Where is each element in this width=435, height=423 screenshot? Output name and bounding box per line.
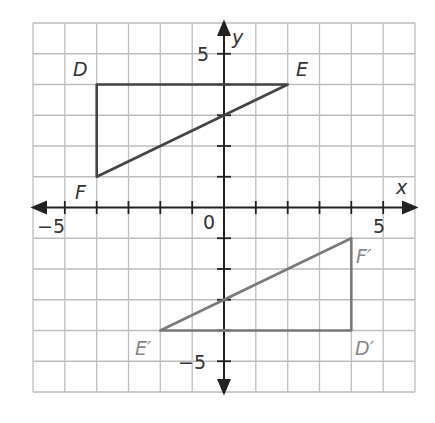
x-axis-label: x bbox=[395, 176, 408, 198]
x-neg-tick-label: −5 bbox=[37, 215, 65, 237]
x-pos-tick-label: 5 bbox=[373, 215, 385, 237]
x-axis-right-arrow-icon bbox=[403, 202, 416, 213]
y-axis-down-arrow-icon bbox=[219, 380, 230, 393]
y-pos-tick-label: 5 bbox=[197, 43, 209, 65]
coordinate-plane: y x 0 5 −5 5 −5 D E F F′ D′ E′ bbox=[0, 0, 435, 423]
y-axis-up-arrow-icon bbox=[219, 22, 230, 35]
vertex-label-d-prime: D′ bbox=[355, 337, 375, 359]
origin-label: 0 bbox=[203, 211, 215, 233]
y-neg-tick-label: −5 bbox=[178, 351, 206, 373]
x-axis-left-arrow-icon bbox=[33, 202, 46, 213]
vertex-label-f: F bbox=[75, 181, 87, 203]
vertex-label-e: E bbox=[296, 58, 308, 80]
y-axis-label: y bbox=[231, 26, 244, 48]
vertex-label-e-prime: E′ bbox=[135, 337, 152, 359]
vertex-label-d: D bbox=[73, 58, 88, 80]
vertex-label-f-prime: F′ bbox=[356, 245, 372, 267]
